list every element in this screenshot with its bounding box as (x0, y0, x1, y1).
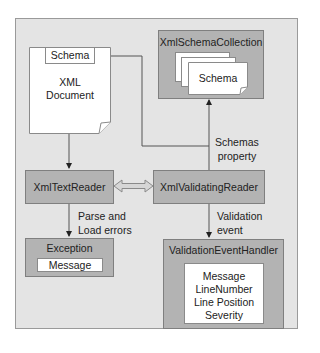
xml-document-title-line1: XML (29, 76, 111, 89)
xml-document-title-line2: Document (29, 89, 111, 102)
exception-message-field: Message (37, 258, 103, 272)
field-message: Message (185, 270, 263, 283)
xml-document: Schema XML Document (29, 47, 111, 134)
validation-event-label: Validation event (217, 209, 262, 237)
field-line-number: LineNumber (185, 283, 263, 296)
parse-errors-line2: Load errors (78, 223, 132, 237)
xml-document-title: XML Document (29, 76, 111, 102)
xml-schema-collection: XmlSchemaCollection Schema (158, 30, 264, 99)
xml-validating-reader: XmlValidatingReader (153, 170, 265, 204)
parse-errors-label: Parse and Load errors (78, 209, 132, 237)
schemas-property-label: Schemas property (215, 135, 259, 163)
field-severity: Severity (185, 309, 263, 322)
schema-page-label: Schema (188, 72, 248, 85)
validation-event-line2: event (217, 223, 262, 237)
validation-event-handler-title: ValidationEventHandler (164, 244, 283, 257)
schema-tab: Schema (45, 47, 95, 64)
field-line-position: Line Position (185, 296, 263, 309)
schemas-property-line2: property (215, 149, 259, 163)
exception-title: Exception (26, 242, 113, 255)
schema-page-front: Schema (188, 62, 248, 95)
xml-text-reader: XmlTextReader (25, 170, 114, 204)
schemas-property-line1: Schemas (215, 135, 259, 149)
double-arrow-icon (114, 180, 153, 192)
validation-event-fields: Message LineNumber Line Position Severit… (184, 263, 264, 324)
validation-event-handler: ValidationEventHandler Message LineNumbe… (163, 239, 284, 329)
parse-errors-line1: Parse and (78, 209, 132, 223)
validation-event-line1: Validation (217, 209, 262, 223)
exception-box: Exception Message (25, 238, 114, 277)
xml-schema-collection-title: XmlSchemaCollection (159, 36, 263, 49)
